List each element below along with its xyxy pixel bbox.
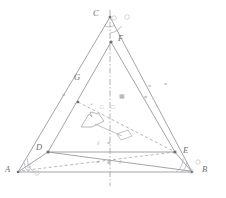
- marker-A-2: [35, 171, 39, 175]
- tick-arrow-slash: ⫽: [96, 140, 100, 146]
- tick-base-equal: =: [96, 159, 99, 165]
- edges-solid: [18, 17, 192, 172]
- marker-C-1: [112, 16, 116, 20]
- geometry-figure: = = = ▦ □ □ ⌄ ≠ = ≡ ⫽ ⫽ = −: [0, 0, 226, 198]
- tick-base-triple: ≡: [107, 159, 110, 165]
- marker-B-1: [196, 160, 200, 164]
- marker-C-2: [125, 15, 130, 20]
- vertex-label-G: G: [74, 73, 80, 82]
- vertex-dots: [17, 16, 194, 174]
- vertex-label-A: A: [5, 165, 10, 174]
- tick-left-mid: −: [74, 100, 77, 106]
- center-pointer-arrow: [81, 112, 104, 127]
- tick-near-F-right: ≠: [144, 94, 147, 100]
- tick-single-far-right: =: [164, 81, 167, 87]
- vertex-dot-A: [17, 171, 20, 174]
- edge-A-D: [18, 152, 48, 172]
- tick-single-left-leg: =: [62, 92, 65, 98]
- vertex-label-E: E: [183, 146, 188, 155]
- vertex-dot-F: [109, 40, 112, 43]
- diagram-canvas: = = = ▦ □ □ ⌄ ≠ = ≡ ⫽ ⫽ = − A B C D E F …: [0, 0, 226, 198]
- tick-arrow-equal: =: [107, 140, 110, 146]
- vertex-dot-E: [173, 150, 176, 153]
- tick-double-center-up: ▦: [119, 93, 125, 99]
- tick-angle-near-G: ⌄: [89, 100, 94, 106]
- tick-box-center-right: □: [111, 104, 115, 110]
- vertex-label-C: C: [93, 9, 99, 18]
- vertex-label-D: D: [36, 143, 42, 152]
- arrow-tail-connector: [95, 124, 122, 136]
- vertex-dot-C: [109, 16, 112, 19]
- tick-single-right-leg: =: [148, 83, 151, 89]
- vertex-label-F: F: [118, 34, 123, 43]
- tick-box-center-left: □: [100, 104, 104, 110]
- vertex-dot-D: [46, 150, 49, 153]
- vertex-label-B: B: [202, 165, 207, 174]
- edge-D-F: [48, 42, 111, 152]
